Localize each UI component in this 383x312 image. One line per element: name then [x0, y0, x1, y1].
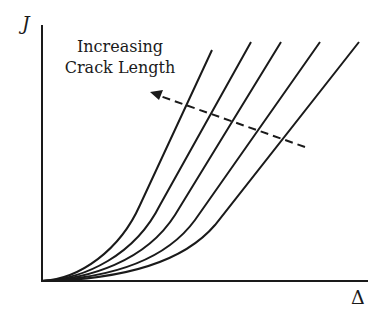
arrowhead-icon: [150, 90, 163, 100]
j-delta-diagram: J Δ Increasing Crack Length: [0, 0, 383, 312]
annotation-line-1: Increasing: [60, 36, 180, 57]
diagram-canvas: [0, 0, 383, 312]
y-axis-label: J: [22, 12, 30, 34]
x-axis-label: Δ: [351, 286, 365, 308]
annotation-text: Increasing Crack Length: [60, 36, 180, 78]
annotation-line-2: Crack Length: [60, 57, 180, 78]
